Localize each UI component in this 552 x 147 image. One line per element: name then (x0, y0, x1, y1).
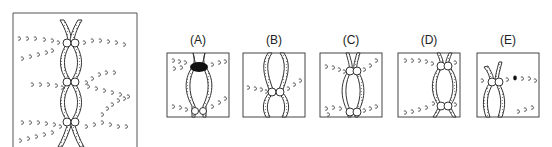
main-panel (13, 13, 137, 147)
option-e-panel[interactable] (477, 53, 539, 117)
option-a-panel[interactable] (167, 53, 229, 117)
figure-canvas: (A) (B) (C) (0, 0, 552, 147)
option-d-label: (D) (421, 33, 438, 47)
option-c-panel[interactable] (320, 53, 382, 117)
option-a-label: (A) (190, 33, 206, 47)
option-d-panel[interactable] (398, 53, 460, 117)
option-b-panel[interactable] (243, 53, 305, 117)
option-c-label: (C) (343, 33, 360, 47)
option-b-label: (B) (266, 33, 282, 47)
option-e-label: (E) (500, 33, 516, 47)
